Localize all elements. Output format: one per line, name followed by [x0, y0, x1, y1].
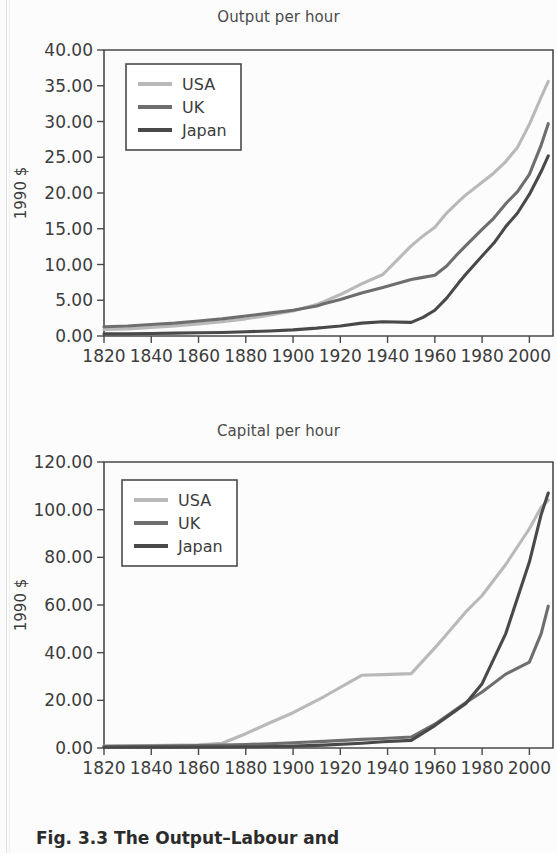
y-axis-tick-label: 120.00: [34, 452, 93, 472]
x-axis-tick-label: 1820: [82, 758, 125, 778]
x-axis-tick-label: 1820: [82, 346, 125, 366]
legend-label-uk: UK: [182, 98, 205, 117]
chart-canvas-capital-per-hour: 0.0020.0040.0060.0080.00100.00120.001820…: [0, 400, 557, 810]
y-axis-tick-label: 30.00: [44, 112, 93, 132]
x-axis-tick-label: 1960: [413, 758, 456, 778]
x-axis-tick-label: 1940: [366, 346, 409, 366]
x-axis-tick-label: 1940: [366, 758, 409, 778]
y-axis-tick-label: 25.00: [44, 147, 93, 167]
x-axis-tick-label: 1860: [177, 346, 220, 366]
chart-panel-capital-per-hour: Capital per hour 0.0020.0040.0060.0080.0…: [0, 400, 557, 810]
y-axis-tick-label: 15.00: [44, 219, 93, 239]
y-axis-tick-label: 80.00: [44, 547, 93, 567]
y-axis-tick-label: 0.00: [55, 738, 93, 758]
y-axis-tick-label: 10.00: [44, 255, 93, 275]
x-axis-tick-label: 2000: [508, 758, 551, 778]
x-axis-tick-label: 1980: [460, 346, 503, 366]
chart-panel-output-per-hour: Output per hour 0.005.0010.0015.0020.002…: [0, 0, 557, 400]
series-line-uk: [104, 606, 548, 746]
figure-caption-label: Fig. 3.3: [36, 828, 108, 848]
x-axis-tick-label: 1920: [319, 758, 362, 778]
y-axis-tick-label: 40.00: [44, 643, 93, 663]
x-axis-tick-label: 1880: [224, 758, 267, 778]
x-axis-tick-label: 1920: [319, 346, 362, 366]
chart-canvas-output-per-hour: 0.005.0010.0015.0020.0025.0030.0035.0040…: [0, 0, 557, 400]
legend-label-japan: Japan: [181, 121, 227, 140]
y-axis-tick-label: 5.00: [55, 290, 93, 310]
x-axis-tick-label: 1900: [271, 758, 314, 778]
y-axis-title: 1990 $: [12, 579, 30, 632]
x-axis-tick-label: 2000: [508, 346, 551, 366]
x-axis-tick-label: 1880: [224, 346, 267, 366]
series-line-uk: [104, 124, 548, 327]
x-axis-tick-label: 1840: [130, 346, 173, 366]
x-axis-tick-label: 1960: [413, 346, 456, 366]
legend-label-japan: Japan: [177, 537, 223, 556]
y-axis-title: 1990 $: [12, 167, 30, 220]
y-axis-tick-label: 35.00: [44, 76, 93, 96]
y-axis-tick-label: 20.00: [44, 690, 93, 710]
y-axis-tick-label: 60.00: [44, 595, 93, 615]
legend-label-usa: USA: [178, 491, 211, 510]
y-axis-tick-label: 40.00: [44, 40, 93, 60]
figure-caption: Fig. 3.3 The Output–Labour and: [36, 828, 556, 848]
x-axis-tick-label: 1900: [271, 346, 314, 366]
y-axis-tick-label: 20.00: [44, 183, 93, 203]
y-axis-tick-label: 0.00: [55, 326, 93, 346]
x-axis-tick-label: 1840: [130, 758, 173, 778]
figure-caption-text: The Output–Labour and: [114, 828, 339, 848]
page-background: Output per hour 0.005.0010.0015.0020.002…: [0, 0, 557, 853]
legend-label-usa: USA: [182, 75, 215, 94]
x-axis-tick-label: 1980: [460, 758, 503, 778]
legend-label-uk: UK: [178, 514, 201, 533]
y-axis-tick-label: 100.00: [34, 500, 93, 520]
x-axis-tick-label: 1860: [177, 758, 220, 778]
